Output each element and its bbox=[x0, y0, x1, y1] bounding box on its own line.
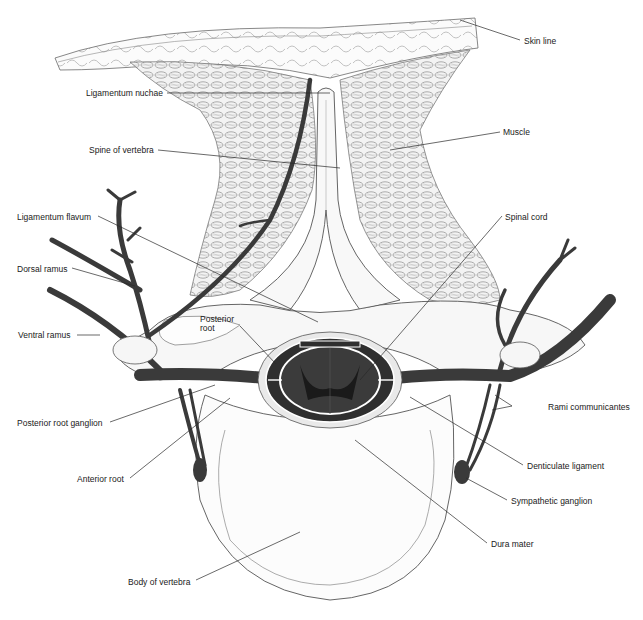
posterior-root-ganglion-right bbox=[500, 342, 540, 368]
spinal-canal bbox=[258, 332, 402, 428]
right-sympathetic-ganglion bbox=[454, 460, 470, 484]
label-dorsal-ramus: Dorsal ramus bbox=[17, 264, 68, 274]
label-skin-line: Skin line bbox=[524, 36, 556, 46]
posterior-root-ganglion-left bbox=[113, 336, 157, 364]
label-posterior-root-ganglion: Posterior root ganglion bbox=[17, 418, 103, 428]
label-denticulate-ligament: Denticulate ligament bbox=[527, 461, 604, 471]
label-body-of-vertebra: Body of vertebra bbox=[128, 577, 190, 587]
label-spine-of-vertebra: Spine of vertebra bbox=[89, 145, 154, 155]
label-dura-mater: Dura mater bbox=[491, 539, 534, 549]
left-sympathetic-ganglion bbox=[193, 458, 207, 482]
label-anterior-root: Anterior root bbox=[77, 474, 124, 484]
label-sympathetic-ganglion: Sympathetic ganglion bbox=[511, 496, 592, 506]
label-ligamentum-flavum: Ligamentum flavum bbox=[17, 212, 91, 222]
label-rami-communicantes: Rami communicantes bbox=[548, 402, 630, 412]
label-posterior-root-line2: root bbox=[200, 323, 215, 333]
label-ligamentum-nuchae: Ligamentum nuchae bbox=[86, 88, 163, 98]
label-muscle: Muscle bbox=[503, 127, 530, 137]
anatomy-diagram: Skin line Ligamentum nuchae Muscle Spine… bbox=[0, 0, 643, 620]
label-ventral-ramus: Ventral ramus bbox=[18, 330, 70, 340]
label-spinal-cord: Spinal cord bbox=[505, 212, 548, 222]
